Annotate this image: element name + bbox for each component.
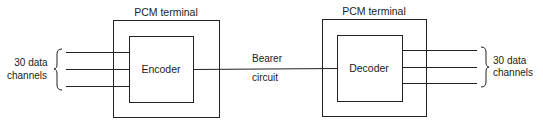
left-channels-line2: channels (7, 70, 47, 81)
right-channels-line2: channels (493, 67, 533, 78)
left-brace-icon (54, 49, 62, 90)
left-pcm-terminal: PCM terminal Encoder (114, 6, 220, 118)
right-pcm-terminal: PCM terminal Decoder (323, 5, 427, 117)
right-channels-line1: 30 data (493, 55, 527, 66)
decoder-label: Decoder (349, 62, 389, 74)
right-brace-icon (481, 47, 489, 87)
bearer-circuit-line (193, 69, 337, 70)
right-terminal-title: PCM terminal (342, 5, 406, 17)
left-terminal-title: PCM terminal (134, 6, 198, 18)
bearer-label: Bearer (252, 53, 283, 64)
left-channels-line1: 30 data (14, 57, 48, 68)
left-input-lines (66, 53, 129, 87)
circuit-label: circuit (252, 72, 278, 83)
pcm-diagram: PCM terminal Encoder 30 data channels Be… (0, 0, 543, 126)
right-output-lines (402, 51, 477, 84)
encoder-label: Encoder (141, 63, 181, 75)
